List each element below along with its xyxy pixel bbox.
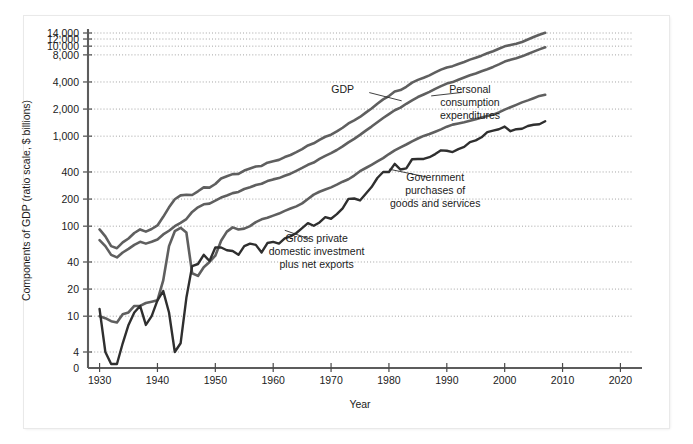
x-tick-label: 2020	[609, 374, 633, 386]
figure-canvas: 41020401002004001,0002,0004,0008,00010,0…	[0, 0, 693, 444]
y-axis-title: Components of GDP (ratio scale, $ billio…	[20, 100, 32, 301]
series-annotation-line: Personal	[449, 83, 490, 95]
series-annotation: Personalconsumptionexpenditures	[440, 83, 500, 121]
series-annotation-line: GDP	[331, 83, 354, 95]
y-tick-label: 40	[67, 256, 79, 268]
y-tick-label: 100	[61, 220, 79, 232]
series-annotation-line: purchases of	[405, 184, 465, 196]
y-tick-label: 200	[61, 193, 79, 205]
x-tick-label: 1970	[319, 374, 343, 386]
x-axis-title: Year	[349, 398, 371, 410]
x-tick-label: 2000	[493, 374, 517, 386]
y-tick-label: 1,000	[53, 130, 79, 142]
series-line	[100, 33, 546, 248]
y-tick-label: 20	[67, 283, 79, 295]
y-tick-label: 14,000	[47, 27, 79, 39]
series-annotation-line: Government	[406, 171, 464, 183]
series-annotation-line: goods and services	[390, 197, 480, 209]
series-annotation-line: consumption	[440, 96, 500, 108]
x-tick-label: 1950	[204, 374, 228, 386]
y-tick-label: 10	[67, 310, 79, 322]
y-tick-label: 400	[61, 166, 79, 178]
series-annotation-line: plus net exports	[280, 258, 354, 270]
series-annotation-line: Gross private	[285, 232, 348, 244]
x-tick-label: 1980	[377, 374, 401, 386]
gdp-components-line-chart: 41020401002004001,0002,0004,0008,00010,0…	[0, 0, 693, 444]
x-tick-label: 2010	[551, 374, 575, 386]
series-annotation-line: expenditures	[440, 109, 500, 121]
x-tick-label: 1990	[435, 374, 459, 386]
y-tick-label-zero: 0	[73, 362, 79, 374]
x-tick-label: 1960	[262, 374, 286, 386]
annotation-leader-line	[369, 93, 401, 101]
y-tick-label: 2,000	[53, 103, 79, 115]
series-annotation-line: domestic investment	[269, 245, 365, 257]
series-annotation: Gross privatedomestic investmentplus net…	[269, 232, 365, 270]
series-annotation: GDP	[331, 83, 354, 95]
x-tick-label: 1940	[146, 374, 170, 386]
x-tick-label: 1930	[88, 374, 112, 386]
series-annotation: Governmentpurchases ofgoods and services	[390, 171, 480, 209]
y-tick-label: 4,000	[53, 76, 79, 88]
y-tick-label: 4	[73, 346, 79, 358]
